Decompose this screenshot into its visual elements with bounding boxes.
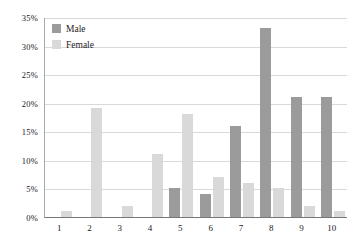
x-tick-label: 4 [148, 223, 153, 233]
y-tick-label: 20% [22, 99, 38, 109]
bar-group [257, 18, 287, 217]
x-tick-label: 1 [57, 223, 62, 233]
legend-item-female: Female [52, 38, 94, 51]
bar-female-4 [152, 154, 163, 217]
bar-male-9 [291, 97, 302, 217]
x-tick-label: 7 [239, 223, 244, 233]
legend-item-male: Male [52, 22, 94, 35]
bar-group [166, 18, 196, 217]
bar-female-8 [273, 188, 284, 217]
y-tick-label: 35% [22, 13, 38, 23]
bar-group [136, 18, 166, 217]
bar-female-2 [91, 108, 102, 217]
bar-female-7 [243, 183, 254, 217]
y-tick-label: 30% [22, 42, 38, 52]
bar-female-1 [61, 211, 72, 217]
y-tick-label: 10% [22, 156, 38, 166]
x-tick-label: 3 [118, 223, 123, 233]
y-tick-label: 0% [26, 213, 38, 223]
bar-male-5 [169, 188, 180, 217]
x-tick-label: 10 [327, 223, 336, 233]
legend-label-female: Female [66, 40, 94, 50]
bar-female-3 [122, 206, 133, 217]
bar-chart: 0%5%10%15%20%25%30%35% 12345678910 Male … [0, 0, 357, 247]
bar-group [287, 18, 317, 217]
y-tick-label: 25% [22, 70, 38, 80]
bar-female-6 [213, 177, 224, 217]
y-axis: 0%5%10%15%20%25%30%35% [0, 0, 44, 218]
x-tick-label: 9 [299, 223, 304, 233]
bar-female-10 [334, 211, 345, 217]
bar-female-9 [304, 206, 315, 217]
x-tick-label: 6 [208, 223, 213, 233]
bar-male-8 [260, 28, 271, 217]
x-tick-label: 5 [178, 223, 183, 233]
bar-male-7 [230, 126, 241, 217]
bar-male-10 [321, 97, 332, 217]
chart-legend: Male Female [52, 22, 94, 51]
bar-male-6 [200, 194, 211, 217]
x-axis: 12345678910 [44, 219, 347, 241]
y-tick-label: 15% [22, 127, 38, 137]
male-swatch-icon [52, 24, 61, 33]
x-tick-label: 8 [269, 223, 274, 233]
bar-group [318, 18, 348, 217]
x-tick-label: 2 [87, 223, 92, 233]
bar-group [227, 18, 257, 217]
bar-group [197, 18, 227, 217]
female-swatch-icon [52, 40, 61, 49]
y-tick-label: 5% [26, 184, 38, 194]
bar-female-5 [182, 114, 193, 217]
bar-group [106, 18, 136, 217]
legend-label-male: Male [66, 24, 86, 34]
